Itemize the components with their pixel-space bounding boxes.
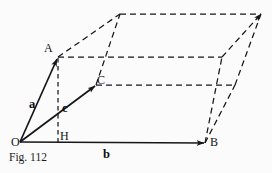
figure-container: O A B C H a b c Fig. 112 xyxy=(0,0,272,173)
point-label-O: O xyxy=(11,136,20,148)
vector-label-c: c xyxy=(62,102,68,115)
vector-b-arrow xyxy=(20,142,204,143)
vector-label-b: b xyxy=(103,148,110,161)
vectors-group xyxy=(20,59,204,143)
point-label-A: A xyxy=(44,42,53,54)
point-label-B: B xyxy=(210,136,218,148)
edge-A-to-topleft xyxy=(58,14,120,57)
figure-caption: Fig. 112 xyxy=(9,152,47,164)
point-label-C: C xyxy=(97,74,105,86)
point-label-H: H xyxy=(60,130,69,142)
edge-rightmid-to-topright xyxy=(222,14,261,57)
vector-a-arrow xyxy=(20,59,57,142)
vector-parallelepiped-diagram xyxy=(0,0,272,173)
dashed-edges-group xyxy=(58,14,261,143)
edge-B-to-rightmid xyxy=(205,57,222,143)
edge-rightlower-to-topright xyxy=(235,14,261,85)
vector-label-a: a xyxy=(29,98,35,111)
